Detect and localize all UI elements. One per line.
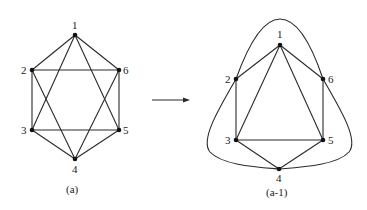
left-graph: 1 2 6 3 5 4 (a) bbox=[21, 19, 129, 196]
node-6 bbox=[321, 77, 326, 82]
node-2 bbox=[234, 77, 239, 82]
node-label-1: 1 bbox=[72, 19, 78, 31]
node-label-3: 3 bbox=[225, 134, 231, 146]
node-label-5: 5 bbox=[123, 124, 129, 136]
caption-a: (a) bbox=[66, 183, 79, 196]
node-1 bbox=[73, 33, 78, 38]
node-label-2: 2 bbox=[21, 64, 27, 76]
node-4 bbox=[277, 167, 282, 172]
caption-a-1: (a-1) bbox=[266, 186, 288, 199]
edge-1-6 bbox=[75, 35, 119, 70]
right-arrow-icon bbox=[152, 98, 190, 103]
node-2 bbox=[30, 68, 35, 73]
node-5 bbox=[117, 128, 122, 133]
node-label-4: 4 bbox=[276, 172, 282, 184]
node-5 bbox=[321, 138, 326, 143]
node-label-5: 5 bbox=[328, 134, 334, 146]
node-label-4: 4 bbox=[72, 163, 78, 175]
node-label-6: 6 bbox=[328, 73, 334, 85]
node-4 bbox=[73, 157, 78, 162]
node-label-2: 2 bbox=[225, 73, 231, 85]
node-1 bbox=[278, 43, 283, 48]
edge-1-3 bbox=[236, 45, 280, 140]
node-label-1: 1 bbox=[277, 28, 283, 40]
node-label-3: 3 bbox=[21, 124, 27, 136]
edge-1-2 bbox=[32, 35, 75, 70]
node-3 bbox=[234, 138, 239, 143]
graph-diagram: 1 2 6 3 5 4 (a) 1 2 6 3 5 bbox=[0, 0, 367, 210]
node-6 bbox=[117, 68, 122, 73]
node-3 bbox=[30, 128, 35, 133]
edge-1-5 bbox=[280, 45, 323, 140]
node-label-6: 6 bbox=[123, 64, 129, 76]
right-graph: 1 2 6 3 5 4 (a-1) bbox=[207, 19, 352, 199]
